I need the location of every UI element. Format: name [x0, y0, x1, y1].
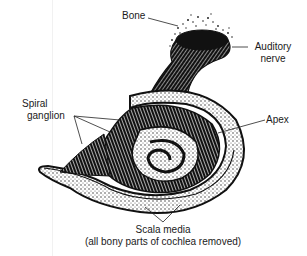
label-auditory-nerve-line1: Auditory: [250, 41, 296, 53]
diagram-caption: (all bony parts of cochlea removed): [60, 236, 266, 248]
spiral-ganglion-fan: [60, 134, 110, 176]
cochlea-illustration: [0, 0, 307, 256]
label-spiral-ganglion: Spiral ganglion: [22, 98, 65, 122]
label-spiral-ganglion-line2: ganglion: [22, 110, 65, 122]
label-spiral-ganglion-line1: Spiral: [22, 98, 65, 110]
label-bone: Bone: [122, 10, 145, 22]
label-auditory-nerve: Auditory nerve: [250, 41, 296, 65]
label-apex: Apex: [266, 114, 289, 126]
label-scala-media: Scala media: [60, 224, 266, 236]
nerve-cut-end: [176, 30, 228, 50]
label-auditory-nerve-line2: nerve: [250, 53, 296, 65]
